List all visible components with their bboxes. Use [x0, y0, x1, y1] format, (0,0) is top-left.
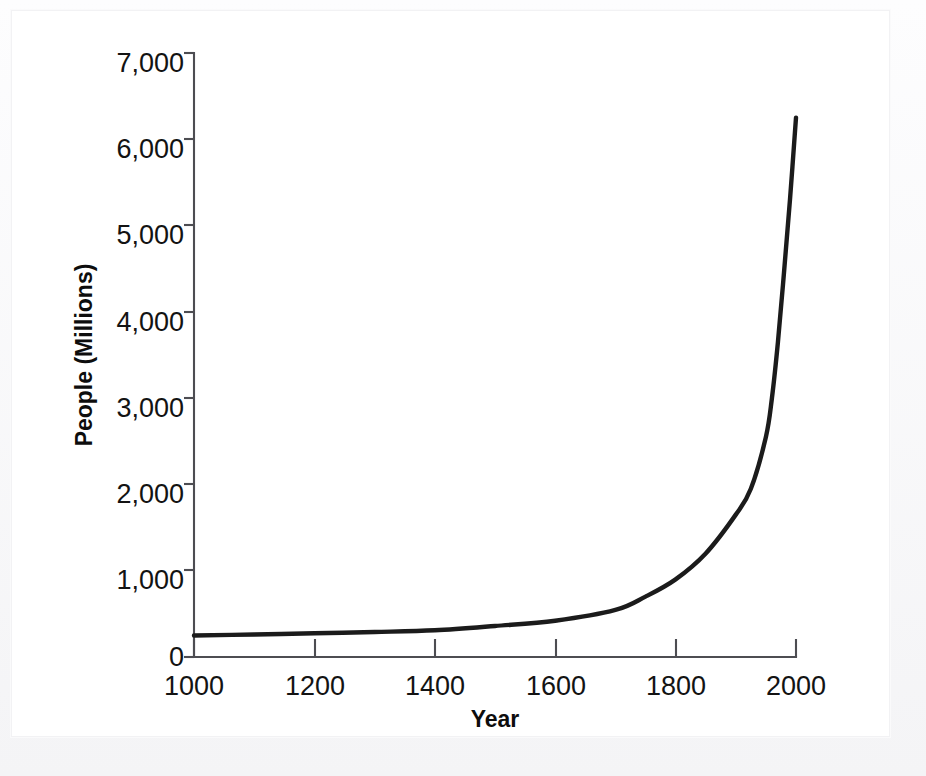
- x-axis-title: Year: [471, 706, 520, 732]
- y-tick-label-5000: 5,000: [116, 220, 184, 250]
- y-tick-label-1000: 1,000: [116, 565, 184, 595]
- y-tick-label-3000: 3,000: [116, 393, 184, 423]
- page-root: 7,000 6,000 5,000 4,000 3,000 2,000 1,00…: [0, 0, 926, 776]
- x-tick-label-2000: 2000: [766, 671, 826, 701]
- x-tick-label-1200: 1200: [285, 671, 345, 701]
- y-tick-label-0: 0: [169, 642, 184, 672]
- chart-svg: 7,000 6,000 5,000 4,000 3,000 2,000 1,00…: [12, 11, 889, 736]
- y-tick-label-2000: 2,000: [116, 479, 184, 509]
- population-curve: [194, 118, 796, 636]
- x-tick-label-1600: 1600: [526, 671, 586, 701]
- y-tick-label-6000: 6,000: [116, 134, 184, 164]
- y-tick-label-7000: 7,000: [116, 48, 184, 78]
- figure-panel: 7,000 6,000 5,000 4,000 3,000 2,000 1,00…: [11, 10, 890, 737]
- y-axis-title: People (Millions): [71, 264, 97, 447]
- x-tick-label-1000: 1000: [164, 671, 224, 701]
- population-growth-chart: 7,000 6,000 5,000 4,000 3,000 2,000 1,00…: [12, 11, 889, 736]
- y-tick-label-4000: 4,000: [116, 307, 184, 337]
- x-tick-label-1800: 1800: [646, 671, 706, 701]
- x-tick-label-1400: 1400: [405, 671, 465, 701]
